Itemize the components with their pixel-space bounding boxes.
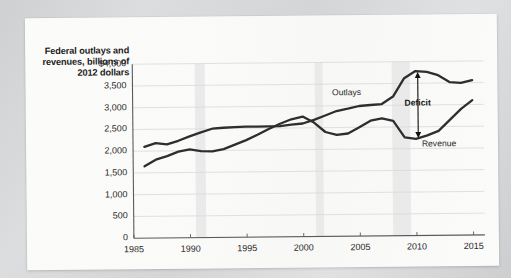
x-tick-label: 2005 <box>340 242 380 252</box>
x-tick-label: 2000 <box>284 242 324 252</box>
x-tick-label: 2015 <box>454 241 494 251</box>
chart-figure: Federal outlays and revenues, billions o… <box>25 14 499 271</box>
x-tick-label: 1995 <box>227 243 267 253</box>
data-series <box>144 71 473 167</box>
y-tick-label: 500 <box>86 211 128 221</box>
annotation-outlays: Outlays <box>332 87 361 97</box>
y-tick-label: 2,000 <box>85 145 127 155</box>
y-tick-label: 3,500 <box>84 80 126 90</box>
y-tick-label: 1,000 <box>85 189 127 199</box>
y-tick-label: 0 <box>86 232 128 242</box>
x-tick-label: 1985 <box>114 244 154 254</box>
y-tick-label: 1,500 <box>85 167 127 177</box>
annotation-deficit: Deficit <box>404 98 430 108</box>
figure-card: Federal outlays and revenues, billions o… <box>25 14 499 271</box>
y-tick-label: 2,500 <box>85 124 127 134</box>
y-tick-label: $4,000 <box>84 58 126 68</box>
y-tick-label: 3,000 <box>85 102 127 112</box>
annotation-revenue: Revenue <box>422 138 457 148</box>
x-tick-label: 2010 <box>397 241 437 251</box>
x-tick-label: 1990 <box>171 243 211 253</box>
